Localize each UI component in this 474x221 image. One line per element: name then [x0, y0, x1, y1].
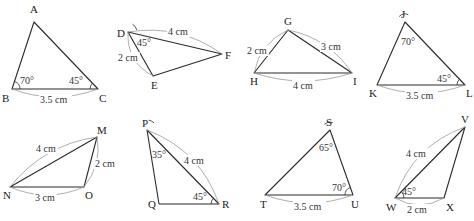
angle-label: 45° — [69, 75, 83, 86]
side-length-label: 3.5 cm — [40, 94, 67, 105]
side-length-label: 2 cm — [407, 204, 427, 215]
vertex-label-u: U — [351, 198, 359, 210]
triangle-abc: 3.5 cm70°45°ABC — [2, 3, 106, 105]
side-length-label: 2 cm — [118, 52, 138, 63]
vertex-label-g: G — [284, 15, 292, 27]
angle-arc — [133, 24, 137, 30]
vertex-label-n: N — [3, 189, 11, 201]
side-length-label: 3.5 cm — [294, 201, 321, 212]
angle-arc — [90, 83, 92, 89]
angle-arc — [211, 198, 213, 204]
triangle-jkl: 3.5 cm70°45°JKL — [369, 8, 473, 101]
side-length-label: 4 cm — [168, 26, 188, 37]
triangles-figure: 3.5 cm70°45°ABC4 cm2 cm45°DEF2 cm3 cm4 c… — [0, 0, 474, 221]
side-length-label: 4 cm — [293, 80, 313, 91]
side-length-label: 3 cm — [35, 192, 55, 203]
vertex-label-l: L — [466, 87, 473, 99]
vertex-label-p: P — [142, 117, 148, 129]
vertex-label-h: H — [250, 75, 258, 87]
vertex-label-b: B — [2, 92, 9, 104]
angle-label: 70° — [401, 36, 415, 47]
angle-label: 45° — [437, 73, 451, 84]
angle-label: 45° — [193, 191, 207, 202]
vertex-label-d: D — [117, 27, 125, 39]
angle-arc — [149, 120, 155, 123]
vertex-label-t: T — [260, 198, 267, 210]
triangle-vwx: 4 cm2 cm45°VWX — [386, 113, 469, 215]
vertex-label-r: R — [222, 198, 230, 210]
triangle-mno: 4 cm2 cm3 cmMNO — [3, 124, 117, 203]
vertex-label-v: V — [461, 113, 469, 125]
vertex-label-e: E — [151, 79, 158, 91]
side-length-label: 3.5 cm — [406, 90, 433, 101]
side-length-label: 2 cm — [247, 45, 267, 56]
vertex-label-a: A — [30, 3, 38, 15]
angle-arc — [457, 79, 459, 85]
vertex-label-i: I — [353, 75, 357, 87]
triangle-stu: 3.5 cm65°70°STU — [260, 116, 359, 212]
triangle-outline — [377, 22, 465, 85]
vertex-label-m: M — [97, 124, 107, 136]
vertex-label-c: C — [99, 92, 106, 104]
vertex-label-o: O — [85, 189, 93, 201]
angle-label: 45° — [137, 37, 151, 48]
vertex-label-w: W — [386, 201, 397, 213]
vertex-label-s: S — [326, 116, 332, 128]
side-length-label: 2 cm — [95, 158, 115, 169]
side-length-label: 4 cm — [406, 148, 426, 159]
triangles-diagram: 3.5 cm70°45°ABC4 cm2 cm45°DEF2 cm3 cm4 c… — [0, 0, 474, 221]
triangle-pqr: 4 cm35°45°PQR — [142, 117, 230, 210]
triangle-def: 4 cm2 cm45°DEF — [117, 24, 231, 91]
angle-label: 70° — [20, 75, 34, 86]
triangle-ghi: 2 cm3 cm4 cmGHI — [246, 15, 357, 91]
angle-label: 65° — [319, 142, 333, 153]
vertex-label-q: Q — [148, 198, 156, 210]
angle-label: 35° — [152, 149, 166, 160]
triangle-outline — [147, 130, 219, 204]
vertex-label-f: F — [225, 49, 231, 61]
side-length-label: 3 cm — [321, 41, 341, 52]
side-length-label: 4 cm — [184, 155, 204, 166]
angle-label: 45° — [402, 186, 416, 197]
angle-label: 70° — [332, 182, 346, 193]
vertex-label-k: K — [369, 87, 377, 99]
vertex-label-x: X — [446, 201, 454, 213]
side-length-label: 4 cm — [36, 143, 56, 154]
vertex-label-j: J — [401, 8, 406, 20]
